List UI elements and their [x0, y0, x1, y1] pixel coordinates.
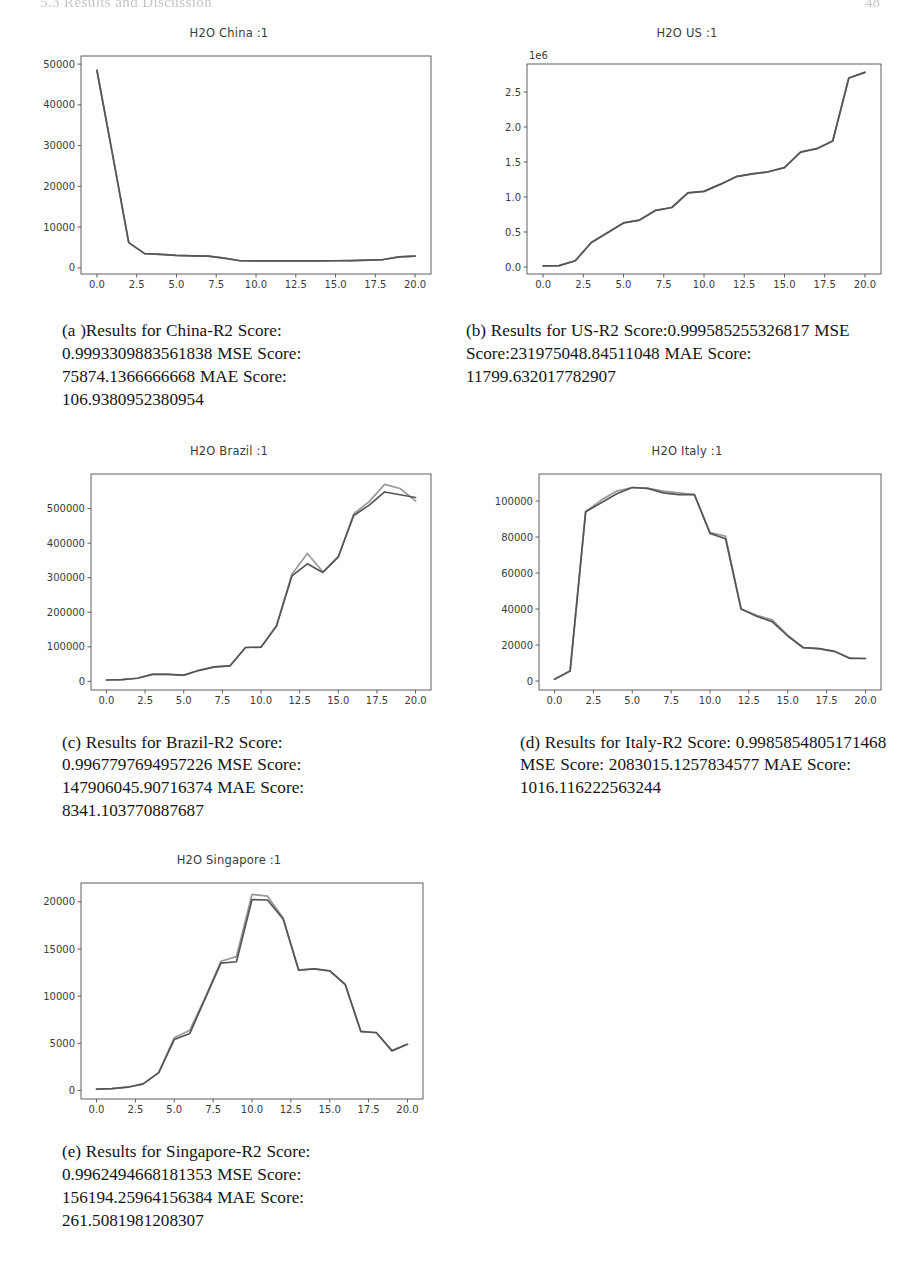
svg-text:5.0: 5.0 — [169, 279, 185, 290]
svg-text:0.0: 0.0 — [99, 695, 115, 706]
svg-text:10.0: 10.0 — [245, 279, 267, 290]
svg-text:7.5: 7.5 — [205, 1104, 221, 1115]
svg-text:12.5: 12.5 — [738, 695, 760, 706]
chart-svg-china: 010000200003000040000500000.02.55.07.510… — [19, 44, 439, 312]
svg-text:80000: 80000 — [501, 531, 533, 542]
svg-text:0: 0 — [527, 675, 533, 686]
svg-text:200000: 200000 — [47, 606, 85, 617]
svg-text:15.0: 15.0 — [324, 279, 346, 290]
svg-text:0: 0 — [69, 1085, 75, 1096]
svg-text:10000: 10000 — [43, 222, 75, 233]
chart-svg-brazil: 01000002000003000004000005000000.02.55.0… — [19, 462, 439, 724]
plot-title-italy: H2O Italy :1 — [477, 444, 897, 458]
svg-text:2.5: 2.5 — [127, 1104, 143, 1115]
running-head: 5.3 Results and Discussion 48 — [0, 0, 916, 16]
svg-text:17.5: 17.5 — [357, 1104, 379, 1115]
figure-caption-c: (c) Results for Brazil-R2 Score: 0.99677… — [62, 732, 432, 824]
svg-text:40000: 40000 — [501, 603, 533, 614]
svg-text:10.0: 10.0 — [241, 1104, 263, 1115]
svg-text:7.5: 7.5 — [656, 279, 672, 290]
svg-text:20.0: 20.0 — [396, 1104, 418, 1115]
plot-title-singapore: H2O Singapore :1 — [19, 853, 439, 867]
figure-caption-d: (d) Results for Italy-R2 Score: 0.998585… — [520, 732, 890, 801]
chart-svg-italy: 0200004000060000800001000000.02.55.07.51… — [477, 462, 897, 724]
svg-text:0.5: 0.5 — [505, 227, 521, 238]
figure-row-2: H2O Brazil :1 01000002000003000004000005… — [0, 444, 916, 824]
svg-text:10000: 10000 — [43, 991, 75, 1002]
svg-text:5.0: 5.0 — [166, 1104, 182, 1115]
svg-text:1e6: 1e6 — [529, 50, 548, 61]
svg-text:30000: 30000 — [43, 140, 75, 151]
svg-text:5.0: 5.0 — [176, 695, 192, 706]
svg-text:100000: 100000 — [47, 641, 85, 652]
svg-text:10.0: 10.0 — [693, 279, 715, 290]
plot-canvas-italy: 0200004000060000800001000000.02.55.07.51… — [477, 462, 897, 724]
svg-text:0: 0 — [79, 675, 85, 686]
svg-text:5.0: 5.0 — [616, 279, 632, 290]
svg-text:0.0: 0.0 — [547, 695, 563, 706]
plot-title-brazil: H2O Brazil :1 — [19, 444, 439, 458]
svg-text:2.5: 2.5 — [137, 695, 153, 706]
svg-text:50000: 50000 — [43, 59, 75, 70]
plot-us: H2O US :1 1e60.00.51.01.52.02.50.02.55.0… — [477, 26, 897, 312]
figure-cell-italy: H2O Italy :1 020000400006000080000100000… — [458, 444, 916, 824]
svg-text:5.0: 5.0 — [624, 695, 640, 706]
svg-text:12.5: 12.5 — [280, 1104, 302, 1115]
plot-singapore: H2O Singapore :1 050001000015000200000.0… — [19, 853, 439, 1133]
plot-canvas-china: 010000200003000040000500000.02.55.07.510… — [19, 44, 439, 312]
svg-text:5000: 5000 — [50, 1038, 75, 1049]
svg-text:15.0: 15.0 — [319, 1104, 341, 1115]
svg-text:17.5: 17.5 — [814, 279, 836, 290]
svg-text:20.0: 20.0 — [404, 695, 426, 706]
figure-caption-b: (b) Results for US-R2 Score:0.9995852553… — [466, 320, 871, 389]
svg-text:2.5: 2.5 — [505, 87, 521, 98]
figure-cell-china: H2O China :1 010000200003000040000500000… — [0, 26, 458, 412]
svg-text:1.0: 1.0 — [505, 192, 521, 203]
figure-caption-e: (e) Results for Singapore-R2 Score: 0.99… — [62, 1141, 432, 1233]
plot-canvas-us: 1e60.00.51.01.52.02.50.02.55.07.510.012.… — [477, 44, 897, 312]
plot-canvas-brazil: 01000002000003000004000005000000.02.55.0… — [19, 462, 439, 724]
figure-row-3: H2O Singapore :1 050001000015000200000.0… — [0, 853, 916, 1233]
svg-text:12.5: 12.5 — [289, 695, 311, 706]
svg-text:10.0: 10.0 — [699, 695, 721, 706]
figure-cell-us: H2O US :1 1e60.00.51.01.52.02.50.02.55.0… — [458, 26, 916, 412]
svg-text:20.0: 20.0 — [854, 695, 876, 706]
svg-text:12.5: 12.5 — [285, 279, 307, 290]
svg-text:20000: 20000 — [43, 896, 75, 907]
figure-cell-brazil: H2O Brazil :1 01000002000003000004000005… — [0, 444, 458, 824]
svg-text:500000: 500000 — [47, 503, 85, 514]
chart-svg-us: 1e60.00.51.01.52.02.50.02.55.07.510.012.… — [477, 44, 897, 312]
svg-text:400000: 400000 — [47, 537, 85, 548]
svg-text:17.5: 17.5 — [364, 279, 386, 290]
running-head-title: 5.3 Results and Discussion — [40, 0, 212, 11]
svg-text:2.5: 2.5 — [129, 279, 145, 290]
plot-title-us: H2O US :1 — [477, 26, 897, 40]
svg-text:17.5: 17.5 — [815, 695, 837, 706]
svg-text:0.0: 0.0 — [89, 1104, 105, 1115]
figure-cell-singapore: H2O Singapore :1 050001000015000200000.0… — [0, 853, 458, 1233]
figure-cell-empty — [458, 853, 916, 1233]
svg-text:12.5: 12.5 — [733, 279, 755, 290]
svg-text:0.0: 0.0 — [505, 262, 521, 273]
svg-text:0.0: 0.0 — [89, 279, 105, 290]
figure-row-1: H2O China :1 010000200003000040000500000… — [0, 26, 916, 412]
svg-text:20.0: 20.0 — [854, 279, 876, 290]
chart-svg-singapore: 050001000015000200000.02.55.07.510.012.5… — [19, 871, 439, 1133]
row-spacer-2 — [0, 823, 916, 853]
svg-text:0.0: 0.0 — [535, 279, 551, 290]
svg-text:15000: 15000 — [43, 944, 75, 955]
svg-text:15.0: 15.0 — [777, 695, 799, 706]
svg-text:7.5: 7.5 — [208, 279, 224, 290]
svg-text:10.0: 10.0 — [250, 695, 272, 706]
svg-text:20.0: 20.0 — [404, 279, 426, 290]
figure-grid: H2O China :1 010000200003000040000500000… — [0, 26, 916, 1233]
svg-text:20000: 20000 — [501, 639, 533, 650]
plot-canvas-singapore: 050001000015000200000.02.55.07.510.012.5… — [19, 871, 439, 1133]
svg-text:20000: 20000 — [43, 181, 75, 192]
svg-text:300000: 300000 — [47, 572, 85, 583]
svg-text:15.0: 15.0 — [773, 279, 795, 290]
plot-brazil: H2O Brazil :1 01000002000003000004000005… — [19, 444, 439, 724]
svg-text:15.0: 15.0 — [327, 695, 349, 706]
svg-text:17.5: 17.5 — [366, 695, 388, 706]
figure-caption-a: (a )Results for China-R2 Score: 0.999330… — [62, 320, 432, 412]
